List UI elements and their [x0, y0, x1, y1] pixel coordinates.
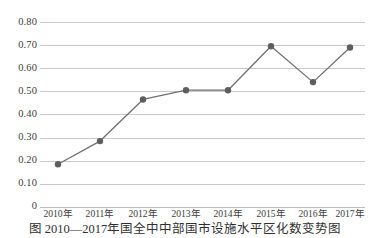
x-axis-tick-label: 2012年 — [128, 209, 157, 219]
x-axis-tick-label: 2014年 — [213, 209, 242, 219]
series-line — [58, 46, 350, 164]
x-axis-tick-label: 2010年 — [43, 209, 72, 219]
line-chart: 0.80 0.70 0.60 0.50 0.40 0.30 0.20 0.10 … — [0, 0, 370, 214]
x-axis-tick-label: 2017年 — [335, 209, 364, 219]
data-point — [310, 79, 316, 85]
figure-container: 0.80 0.70 0.60 0.50 0.40 0.30 0.20 0.10 … — [0, 0, 370, 238]
data-point — [55, 161, 61, 167]
data-point — [225, 87, 231, 93]
data-point — [347, 44, 353, 50]
data-point — [140, 96, 146, 102]
data-point — [268, 43, 274, 49]
figure-caption: 图 2010—2017年国全中中部国市设施水平区化数变势图 — [0, 222, 370, 237]
x-axis-tick-label: 2016年 — [298, 209, 327, 219]
x-axis-tick-label: 2011年 — [86, 209, 115, 219]
x-axis-tick-label: 2013年 — [171, 209, 200, 219]
series-markers — [55, 43, 353, 167]
x-axis-tick-label: 2015年 — [256, 209, 285, 219]
data-point — [183, 87, 189, 93]
data-point — [97, 138, 103, 144]
data-series — [0, 0, 370, 214]
